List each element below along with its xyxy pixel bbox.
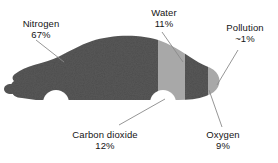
leader-oxygen (209, 90, 222, 127)
segment-water-carbon-dioxide (158, 20, 185, 120)
callout-pollution-value: ~1% (216, 33, 274, 44)
front-bumper (4, 84, 16, 94)
callout-nitrogen: Nitrogen 67% (8, 18, 74, 40)
callout-carbon-dioxide: Carbon dioxide 12% (62, 129, 148, 151)
callout-carbon-dioxide-value: 12% (62, 140, 148, 151)
callout-nitrogen-name: Nitrogen (23, 18, 60, 29)
callout-oxygen: Oxygen 9% (195, 129, 251, 151)
callout-pollution: Pollution ~1% (216, 22, 274, 44)
leader-pollution (217, 50, 238, 85)
callout-water: Water 11% (136, 7, 192, 29)
exhaust-composition-figure: Nitrogen 67% Water 11% Pollution ~1% Car… (0, 0, 278, 163)
callout-water-value: 11% (136, 18, 192, 29)
leader-nitrogen (36, 40, 64, 62)
callout-pollution-name: Pollution (226, 22, 263, 33)
segment-body-dark-rear (185, 20, 208, 120)
leader-carbon-dioxide (119, 99, 165, 125)
callout-oxygen-name: Oxygen (206, 129, 239, 140)
callout-oxygen-value: 9% (195, 140, 251, 151)
callout-nitrogen-value: 67% (8, 29, 74, 40)
callout-carbon-dioxide-name: Carbon dioxide (72, 129, 137, 140)
callout-water-name: Water (151, 7, 176, 18)
